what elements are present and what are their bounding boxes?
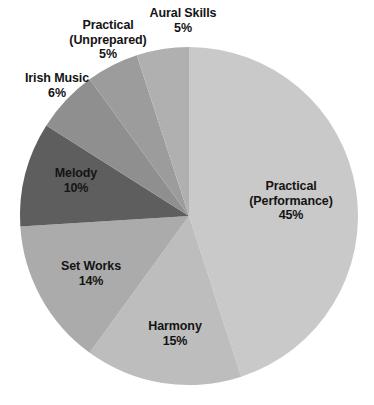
slice-label-melody: Melody 10% bbox=[28, 166, 124, 195]
slice-label-name: Practical bbox=[232, 179, 350, 194]
slice-label-value: 14% bbox=[36, 274, 146, 289]
slice-label-value: 6% bbox=[6, 86, 108, 101]
slice-label-name: Practical bbox=[48, 18, 168, 33]
slice-label-name: Set Works bbox=[36, 259, 146, 274]
slice-label-name-line2: (Unprepared) bbox=[48, 33, 168, 48]
slice-label-value: 45% bbox=[232, 208, 350, 223]
slice-label-value: 10% bbox=[28, 181, 124, 196]
pie-chart: Aural Skills 5% Practical (Unprepared) 5… bbox=[0, 0, 374, 405]
slice-label-name: Melody bbox=[28, 166, 124, 181]
slice-label-name: Harmony bbox=[123, 319, 227, 334]
slice-label-name-line2: (Performance) bbox=[232, 194, 350, 209]
slice-label-name: Irish Music bbox=[6, 71, 108, 86]
slice-label-practical-performance: Practical (Performance) 45% bbox=[232, 179, 350, 223]
slice-label-set-works: Set Works 14% bbox=[36, 259, 146, 288]
slice-label-value: 5% bbox=[48, 47, 168, 62]
slice-label-value: 15% bbox=[123, 334, 227, 349]
slice-label-harmony: Harmony 15% bbox=[123, 319, 227, 348]
slice-label-irish-music: Irish Music 6% bbox=[6, 71, 108, 100]
slice-label-practical-unprepared: Practical (Unprepared) 5% bbox=[48, 18, 168, 62]
